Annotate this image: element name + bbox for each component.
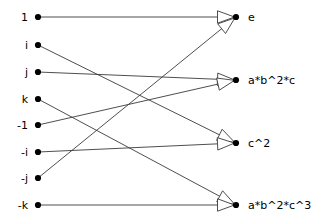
source-node-label: -k: [18, 200, 28, 211]
edge-layer: [38, 17, 236, 205]
source-node-label: k: [22, 94, 28, 105]
graph-edge: [38, 99, 236, 205]
target-node-dot[interactable]: [233, 14, 239, 20]
node-layer: [35, 14, 239, 208]
source-node-dot[interactable]: [35, 14, 41, 20]
source-node-dot[interactable]: [35, 42, 41, 48]
source-node-dot[interactable]: [35, 122, 41, 128]
source-node-dot[interactable]: [35, 202, 41, 208]
source-node-label: i: [25, 40, 28, 51]
diagram-canvas: 1ijk-1-i-j-k ea*b^2*cc^2a*b^2*c^3: [0, 0, 326, 223]
source-node-label: 1: [21, 12, 28, 23]
graph-edge: [38, 45, 236, 143]
graph-edge: [38, 80, 236, 125]
source-node-dot[interactable]: [35, 69, 41, 75]
source-node-label: j: [25, 67, 28, 78]
source-node-label: -j: [21, 173, 28, 184]
source-node-dot[interactable]: [35, 96, 41, 102]
graph-edge: [38, 72, 236, 80]
target-node-label: a*b^2*c^3: [248, 200, 311, 211]
target-node-label: c^2: [248, 138, 270, 149]
graph-svg: [0, 0, 326, 223]
source-node-label: -i: [21, 147, 28, 158]
target-node-dot[interactable]: [233, 202, 239, 208]
target-node-dot[interactable]: [233, 140, 239, 146]
graph-edge: [38, 143, 236, 152]
arrowhead-layer: [217, 11, 235, 211]
target-node-label: e: [248, 12, 255, 23]
edge-arrowhead: [217, 78, 235, 90]
source-node-label: -1: [17, 120, 28, 131]
graph-edge: [38, 17, 236, 178]
source-node-dot[interactable]: [35, 175, 41, 181]
source-node-dot[interactable]: [35, 149, 41, 155]
target-node-dot[interactable]: [233, 77, 239, 83]
target-node-label: a*b^2*c: [248, 75, 295, 86]
